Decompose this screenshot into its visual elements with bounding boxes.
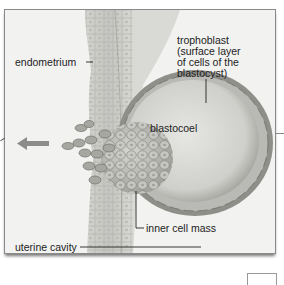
direction-arrow-left-icon xyxy=(17,137,49,150)
label-blastocoel: blastocoel xyxy=(150,122,197,134)
diagram-frame: endometrium trophoblast (surface layer o… xyxy=(4,9,276,254)
edge-line xyxy=(276,133,284,134)
label-uterine-cavity: uterine cavity xyxy=(15,241,77,253)
corner-box xyxy=(247,273,277,285)
label-endometrium: endometrium xyxy=(15,56,76,68)
label-inner-cell-mass: inner cell mass xyxy=(146,222,216,234)
label-trophoblast-line4: blastocyst) xyxy=(177,67,227,79)
